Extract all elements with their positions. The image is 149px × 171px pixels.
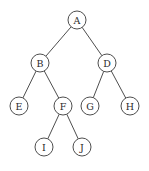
edge-d-h [111,71,126,98]
node-a: A [68,11,86,29]
binary-tree-diagram: ABDEFGHIJ [0,0,149,171]
node-j: J [73,138,91,156]
node-label: D [103,58,111,69]
node-label: G [86,101,94,112]
tree-edges [23,27,126,139]
node-i: I [35,138,53,156]
edge-d-g [93,71,103,97]
edge-f-j [67,114,78,139]
node-label: H [126,101,134,112]
node-b: B [31,54,49,72]
node-g: G [81,97,99,115]
node-e: E [10,97,28,115]
node-label: E [16,101,23,112]
node-d: D [98,54,116,72]
node-label: B [37,58,44,69]
edge-a-b [46,27,71,56]
edge-b-e [23,71,36,98]
tree-nodes: ABDEFGHIJ [10,11,139,156]
node-label: J [79,142,84,153]
edge-a-d [82,27,102,55]
node-label: A [73,15,81,26]
node-h: H [121,97,139,115]
edge-f-i [48,114,59,139]
node-label: F [60,101,67,112]
edge-b-f [44,71,59,98]
node-label: I [42,142,46,153]
node-f: F [54,97,72,115]
